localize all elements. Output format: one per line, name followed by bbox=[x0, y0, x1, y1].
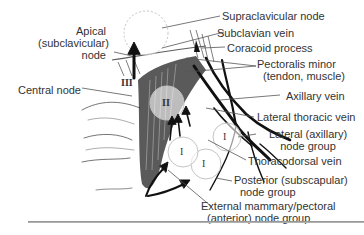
lateral-node-circle bbox=[213, 123, 241, 151]
level-2-marker: II bbox=[162, 97, 170, 109]
label-apical-node: Apical (subclavicular) node bbox=[38, 25, 106, 61]
level-1-external-marker: I bbox=[180, 146, 183, 158]
level-1-posterior-marker: I bbox=[202, 158, 205, 170]
bottom-divider bbox=[28, 221, 364, 223]
label-apical-line1: Apical bbox=[38, 25, 106, 37]
level-3-marker: III bbox=[121, 77, 133, 89]
label-posterior-line2: node group bbox=[234, 186, 348, 198]
label-coracoid-process: Coracoid process bbox=[227, 42, 313, 54]
label-supraclavicular-node: Supraclavicular node bbox=[222, 10, 325, 22]
arm-sketch bbox=[82, 102, 140, 190]
label-apical-line2: (subclavicular) bbox=[38, 37, 106, 49]
label-axillary-vein: Axillary vein bbox=[286, 90, 345, 102]
label-pectoralis-line2: (tendon, muscle) bbox=[257, 70, 345, 82]
label-lateral-line2: node group bbox=[258, 140, 358, 152]
label-pectoralis-line1: Pectoralis minor bbox=[257, 58, 345, 70]
label-subclavian-vein: Subclavian vein bbox=[217, 27, 294, 39]
label-central-node: Central node bbox=[18, 84, 81, 96]
label-posterior-line1: Posterior (subscapular) bbox=[234, 174, 348, 186]
label-posterior-node-group: Posterior (subscapular) node group bbox=[234, 174, 348, 198]
label-lateral-thoracic-vein: Lateral thoracic vein bbox=[257, 111, 355, 123]
axillary-node-diagram: III II I I I Supraclavicular node Apical… bbox=[0, 0, 364, 235]
label-lateral-node-group: Lateral (axillary) node group bbox=[258, 128, 358, 152]
label-external-line1: External mammary/pectoral bbox=[201, 200, 336, 212]
label-thoracodorsal-vein: Thoracodorsal vein bbox=[248, 155, 342, 167]
label-apical-line3: node bbox=[38, 49, 106, 61]
label-lateral-line1: Lateral (axillary) bbox=[258, 128, 358, 140]
label-pectoralis-minor: Pectoralis minor (tendon, muscle) bbox=[257, 58, 345, 82]
level-1-lateral-marker: I bbox=[223, 131, 226, 143]
